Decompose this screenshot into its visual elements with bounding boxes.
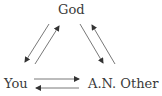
arrow-you-to-god: [35, 26, 59, 64]
arrow-god-to-you: [25, 24, 49, 62]
arrow-god-to-other: [80, 24, 103, 63]
node-you: You: [4, 77, 28, 90]
node-god: God: [58, 3, 85, 16]
arrow-other-to-god: [92, 25, 115, 64]
relationship-triangle-diagram: God You A.N. Other: [0, 0, 162, 96]
node-another: A.N. Other: [88, 77, 159, 90]
